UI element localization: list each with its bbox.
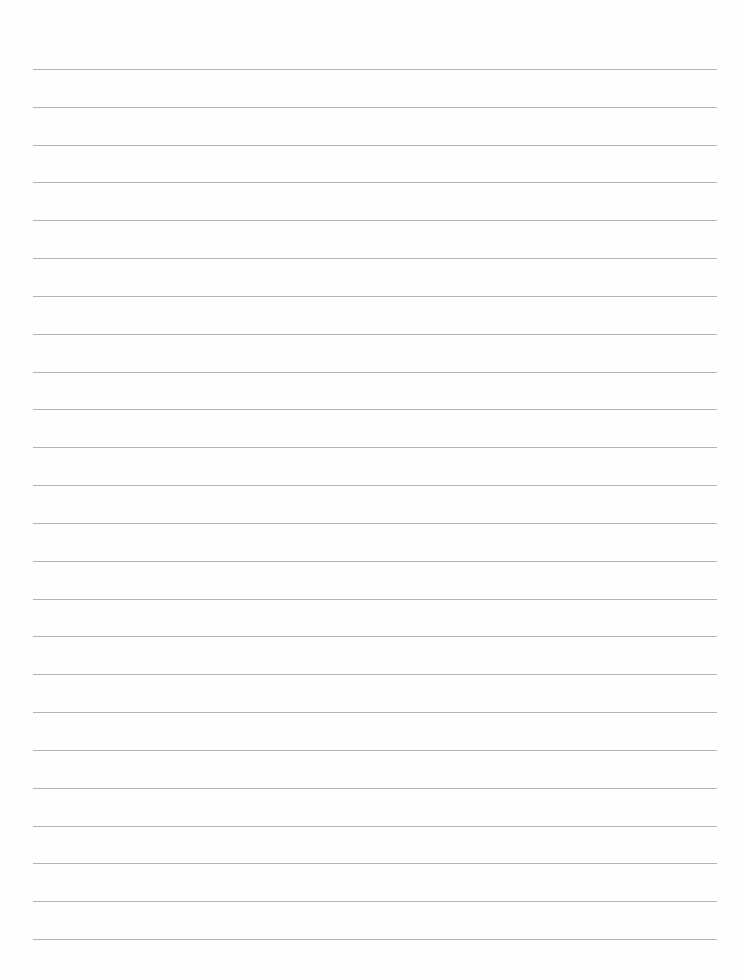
- ruled-line: [33, 674, 717, 675]
- ruled-line: [33, 69, 717, 70]
- ruled-line: [33, 750, 717, 751]
- ruled-line: [33, 561, 717, 562]
- ruled-line: [33, 107, 717, 108]
- lined-paper-page: [0, 0, 744, 979]
- ruled-line: [33, 523, 717, 524]
- ruled-line: [33, 485, 717, 486]
- ruled-line: [33, 372, 717, 373]
- ruled-line: [33, 409, 717, 410]
- ruled-line: [33, 296, 717, 297]
- ruled-line: [33, 599, 717, 600]
- ruled-line: [33, 220, 717, 221]
- ruled-line: [33, 863, 717, 864]
- ruled-line: [33, 447, 717, 448]
- ruled-line: [33, 334, 717, 335]
- ruled-line: [33, 258, 717, 259]
- ruled-line: [33, 901, 717, 902]
- ruled-line: [33, 939, 717, 940]
- ruled-line: [33, 712, 717, 713]
- ruled-line: [33, 788, 717, 789]
- ruled-line: [33, 636, 717, 637]
- ruled-line: [33, 182, 717, 183]
- ruled-line: [33, 145, 717, 146]
- ruled-line: [33, 826, 717, 827]
